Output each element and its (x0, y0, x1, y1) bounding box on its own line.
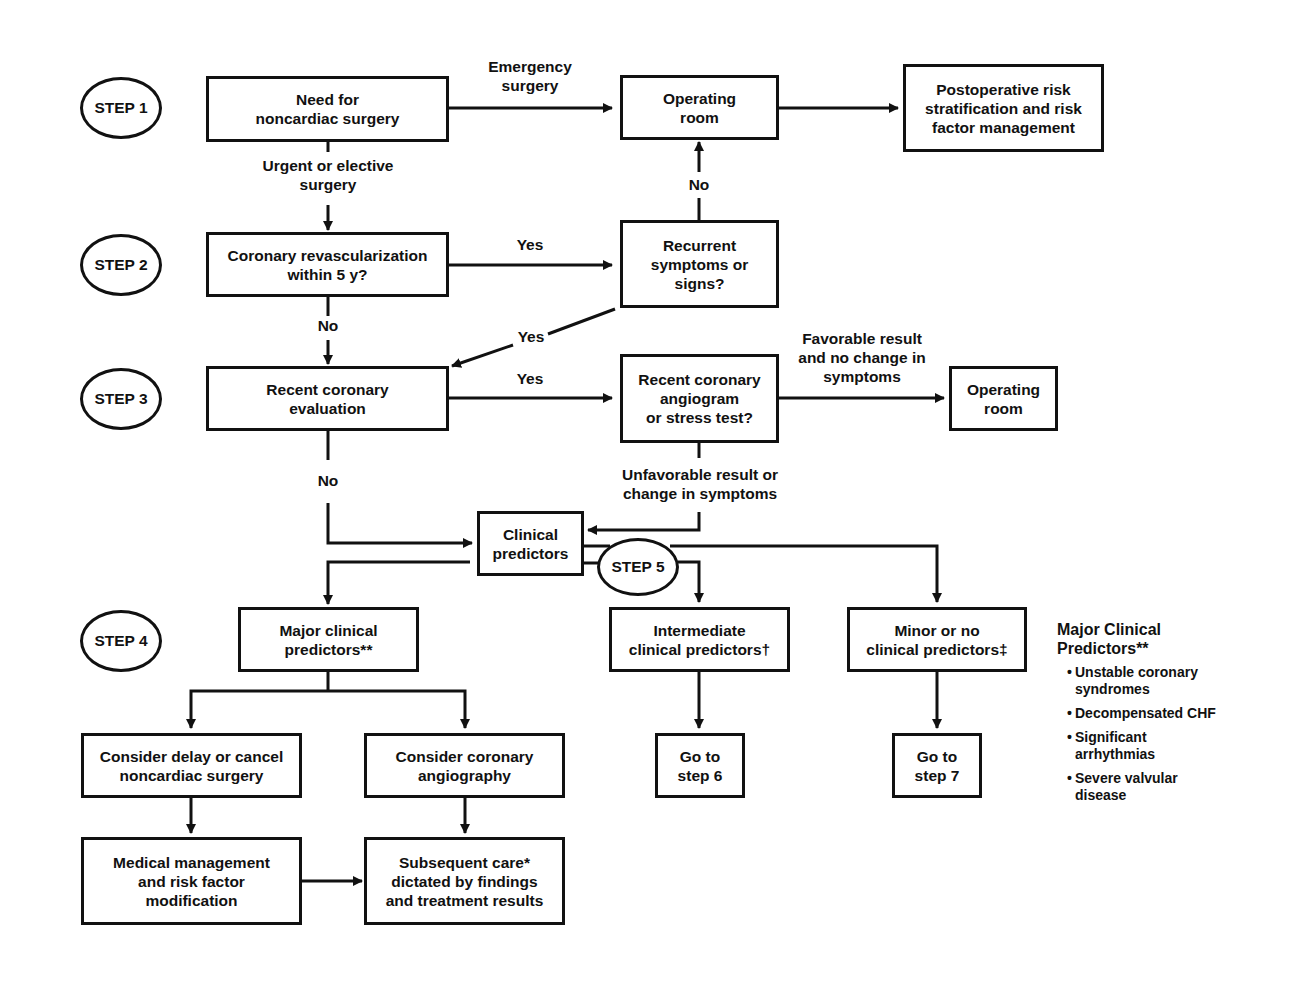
bullet-icon: • (1067, 729, 1072, 746)
legend-list: •Unstable coronary syndromes •Decompensa… (1067, 664, 1287, 804)
arrow-to-angiography (328, 691, 465, 728)
step-5-oval: STEP 5 (597, 538, 679, 596)
node-go-to-step-6: Go to step 6 (655, 733, 745, 798)
label-no-recurrent: No (679, 175, 719, 194)
bullet-icon: • (1067, 770, 1072, 787)
arrow-to-minor (670, 546, 937, 602)
node-recent-coronary-evaluation: Recent coronary evaluation (206, 366, 449, 431)
arrow-no-recent-eval (328, 503, 472, 543)
node-minor-clinical-predictors: Minor or no clinical predictors‡ (847, 607, 1027, 672)
node-consider-delay-cancel: Consider delay or cancel noncardiac surg… (81, 733, 302, 798)
legend-item: •Decompensated CHF (1067, 705, 1287, 722)
node-go-to-step-7: Go to step 7 (892, 733, 982, 798)
node-recent-angiogram-stress-test: Recent coronary angiogram or stress test… (620, 354, 779, 443)
bullet-icon: • (1067, 705, 1072, 722)
legend-major-clinical-predictors: Major Clinical Predictors** •Unstable co… (1057, 620, 1287, 811)
label-yes-recent-evaluation: Yes (505, 369, 555, 388)
legend-title: Major Clinical Predictors** (1057, 620, 1287, 658)
node-major-clinical-predictors: Major clinical predictors** (238, 607, 419, 672)
arrow-to-major (328, 562, 470, 604)
legend-item: •Significant arrhythmias (1067, 729, 1287, 763)
step-4-oval: STEP 4 (80, 610, 162, 672)
label-yes-revascularization: Yes (505, 235, 555, 254)
label-unfavorable-result: Unfavorable result or change in symptoms (600, 465, 800, 503)
node-intermediate-clinical-predictors: Intermediate clinical predictors† (609, 607, 790, 672)
label-no-revascularization: No (308, 316, 348, 335)
node-coronary-revascularization: Coronary revascularization within 5 y? (206, 232, 449, 297)
node-subsequent-care: Subsequent care* dictated by findings an… (364, 837, 565, 925)
label-no-recent-evaluation: No (308, 471, 348, 490)
bullet-icon: • (1067, 664, 1072, 681)
arrow-unfavorable (588, 512, 699, 530)
label-emergency-surgery: Emergency surgery (470, 57, 590, 95)
arrow-yes-recurrent (452, 345, 513, 366)
node-recurrent-symptoms: Recurrent symptoms or signs? (620, 220, 779, 308)
label-urgent-or-elective: Urgent or elective surgery (238, 156, 418, 194)
legend-item: •Unstable coronary syndromes (1067, 664, 1287, 698)
step-2-oval: STEP 2 (80, 234, 162, 296)
node-operating-room-2: Operating room (949, 366, 1058, 431)
node-operating-room-1: Operating room (620, 75, 779, 140)
arrow-to-delay (191, 691, 328, 728)
node-consider-coronary-angiography: Consider coronary angiography (364, 733, 565, 798)
node-need-noncardiac-surgery: Need for noncardiac surgery (206, 76, 449, 142)
node-clinical-predictors: Clinical predictors (477, 511, 584, 576)
node-medical-management: Medical management and risk factor modif… (81, 837, 302, 925)
label-favorable-result: Favorable result and no change in sympto… (782, 329, 942, 386)
legend-item: •Severe valvular disease (1067, 770, 1287, 804)
step-3-oval: STEP 3 (80, 368, 162, 430)
step-1-oval: STEP 1 (80, 77, 162, 139)
label-yes-recurrent: Yes (506, 327, 556, 346)
node-postoperative-risk: Postoperative risk stratification and ri… (903, 64, 1104, 152)
